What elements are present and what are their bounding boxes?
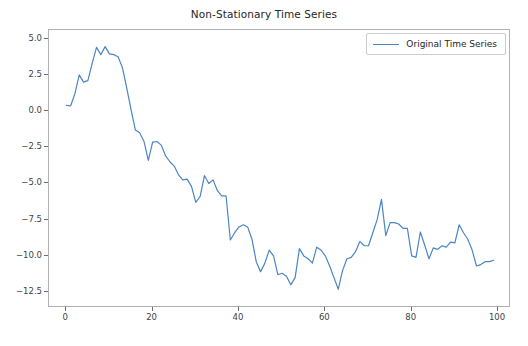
y-tick-label: 0.0 <box>28 105 42 115</box>
x-tick-label: 100 <box>489 312 505 322</box>
legend-label: Original Time Series <box>406 39 497 49</box>
y-tick-label: −12.5 <box>16 286 42 296</box>
legend-line-swatch <box>373 44 399 45</box>
time-series-line <box>49 30 511 308</box>
y-tick-label: −5.0 <box>21 177 42 187</box>
x-tick-label: 80 <box>405 312 416 322</box>
x-tick-label: 0 <box>63 312 68 322</box>
x-tick-label: 60 <box>319 312 330 322</box>
y-tick-label: −7.5 <box>21 214 42 224</box>
y-tick-label: 2.5 <box>28 69 42 79</box>
y-axis-tick-labels: 5.02.50.0−2.5−5.0−7.5−10.0−12.5 <box>0 0 42 346</box>
y-tick-label: 5.0 <box>28 33 42 43</box>
y-tick-label: −2.5 <box>21 141 42 151</box>
x-tick-label: 20 <box>146 312 157 322</box>
y-tick-label: −10.0 <box>16 250 42 260</box>
plot-area: Original Time Series <box>48 29 510 307</box>
chart-title: Non-Stationary Time Series <box>0 8 528 20</box>
series-polyline-original-time-series <box>66 47 493 290</box>
x-tick-label: 40 <box>233 312 244 322</box>
chart-figure: Non-Stationary Time Series 5.02.50.0−2.5… <box>0 0 528 346</box>
chart-legend: Original Time Series <box>366 33 506 55</box>
